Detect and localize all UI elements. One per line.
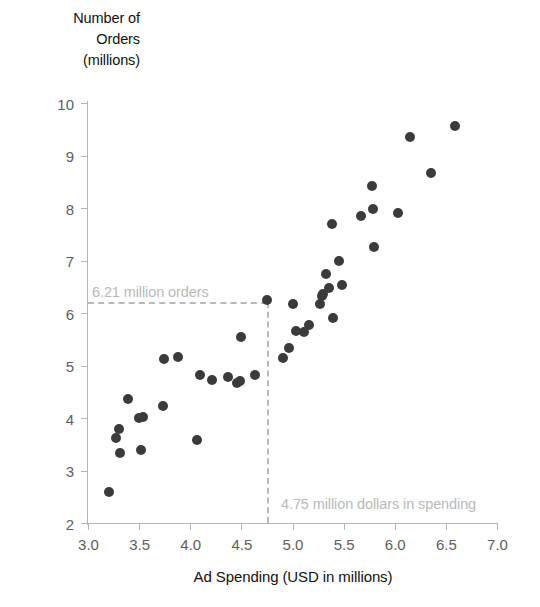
x-tick-5.5: 5.5 bbox=[344, 523, 345, 530]
data-point bbox=[173, 352, 183, 362]
x-tick-6.5: 6.5 bbox=[446, 523, 447, 530]
x-tick-5.0: 5.0 bbox=[293, 523, 294, 530]
x-tick-3.5: 3.5 bbox=[139, 523, 140, 530]
y-axis-title: Number of Orders (millions) bbox=[8, 8, 140, 71]
data-point bbox=[405, 132, 415, 142]
data-point bbox=[123, 394, 133, 404]
x-tick-label: 4.0 bbox=[180, 536, 201, 553]
data-point bbox=[262, 295, 272, 305]
orders-guide bbox=[88, 302, 267, 304]
y-axis-title-line-3: (millions) bbox=[8, 50, 140, 71]
y-axis-title-line-1: Number of bbox=[8, 8, 140, 29]
y-tick-label: 4 bbox=[66, 410, 74, 427]
y-tick-6: 6 bbox=[81, 313, 88, 314]
data-point bbox=[138, 412, 148, 422]
scatter-chart: Number of Orders (millions) 2345678910 3… bbox=[0, 0, 540, 607]
data-point bbox=[207, 375, 217, 385]
spending-guide bbox=[267, 302, 269, 523]
spending-guide-label: 4.75 million dollars in spending bbox=[281, 496, 476, 512]
x-tick-6.0: 6.0 bbox=[395, 523, 396, 530]
y-tick-label: 5 bbox=[66, 358, 74, 375]
data-point bbox=[284, 343, 294, 353]
data-point bbox=[324, 283, 334, 293]
y-axis-title-line-2: Orders bbox=[8, 29, 140, 50]
y-tick-9: 9 bbox=[81, 156, 88, 157]
y-tick-4: 4 bbox=[81, 418, 88, 419]
data-point bbox=[195, 370, 205, 380]
data-point bbox=[450, 121, 460, 131]
x-tick-4.5: 4.5 bbox=[241, 523, 242, 530]
y-tick-8: 8 bbox=[81, 208, 88, 209]
x-tick-label: 7.0 bbox=[487, 536, 508, 553]
y-tick-label: 7 bbox=[66, 253, 74, 270]
y-tick-label: 9 bbox=[66, 148, 74, 165]
data-point bbox=[115, 448, 125, 458]
y-tick-label: 6 bbox=[66, 305, 74, 322]
x-tick-label: 3.0 bbox=[78, 536, 99, 553]
x-tick-label: 6.0 bbox=[385, 536, 406, 553]
x-tick-4.0: 4.0 bbox=[190, 523, 191, 530]
data-point bbox=[159, 354, 169, 364]
data-point bbox=[111, 433, 121, 443]
data-point bbox=[192, 435, 202, 445]
data-point bbox=[356, 211, 366, 221]
data-point bbox=[426, 168, 436, 178]
x-tick-label: 5.5 bbox=[334, 536, 355, 553]
data-point bbox=[334, 256, 344, 266]
data-point bbox=[250, 370, 260, 380]
data-point bbox=[136, 445, 146, 455]
data-point bbox=[368, 204, 378, 214]
orders-guide-label: 6.21 million orders bbox=[92, 284, 209, 300]
x-tick-label: 6.5 bbox=[436, 536, 457, 553]
y-tick-label: 8 bbox=[66, 200, 74, 217]
data-point bbox=[104, 487, 114, 497]
data-point bbox=[369, 242, 379, 252]
data-point bbox=[337, 280, 347, 290]
y-tick-3: 3 bbox=[81, 471, 88, 472]
data-point bbox=[327, 219, 337, 229]
data-point bbox=[114, 424, 124, 434]
x-tick-7.0: 7.0 bbox=[497, 523, 498, 530]
data-point bbox=[393, 208, 403, 218]
y-tick-label: 2 bbox=[66, 515, 74, 532]
y-tick-5: 5 bbox=[81, 366, 88, 367]
x-tick-label: 4.5 bbox=[231, 536, 252, 553]
plot-area bbox=[88, 103, 497, 523]
y-tick-label: 3 bbox=[66, 463, 74, 480]
data-point bbox=[367, 181, 377, 191]
data-point bbox=[328, 313, 338, 323]
x-tick-label: 5.0 bbox=[283, 536, 304, 553]
data-point bbox=[304, 320, 314, 330]
data-point bbox=[321, 269, 331, 279]
y-tick-10: 10 bbox=[81, 103, 88, 104]
y-tick-7: 7 bbox=[81, 261, 88, 262]
data-point bbox=[235, 376, 245, 386]
x-tick-label: 3.5 bbox=[129, 536, 150, 553]
x-tick-3.0: 3.0 bbox=[88, 523, 89, 530]
y-tick-2: 2 bbox=[81, 523, 88, 524]
data-point bbox=[278, 353, 288, 363]
data-point bbox=[158, 401, 168, 411]
x-axis-title: Ad Spending (USD in millions) bbox=[88, 568, 498, 585]
data-point bbox=[288, 299, 298, 309]
y-tick-label: 10 bbox=[57, 95, 74, 112]
data-point bbox=[236, 332, 246, 342]
